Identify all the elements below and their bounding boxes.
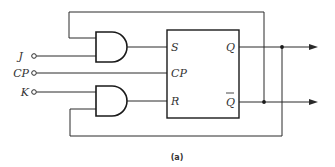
pin-label-qbar: Q xyxy=(226,96,235,109)
jk-flip-flop-diagram: J CP K S CP R Q Q (a) xyxy=(0,0,335,167)
junction-dot-qbar xyxy=(262,100,266,104)
junction-dot-q xyxy=(280,45,284,49)
arrow-q-icon xyxy=(309,44,318,50)
and-gate-bottom xyxy=(96,86,127,116)
label-cp: CP xyxy=(13,67,29,80)
pin-label-s: S xyxy=(171,41,179,54)
label-j: J xyxy=(17,50,24,63)
pin-label-cp: CP xyxy=(171,67,187,80)
label-k: K xyxy=(20,86,30,99)
pin-label-r: R xyxy=(170,95,179,108)
arrow-qbar-icon xyxy=(309,99,318,105)
input-terminal-j xyxy=(32,54,37,59)
input-terminal-cp xyxy=(32,71,37,76)
figure-caption: (a) xyxy=(171,153,184,162)
pin-label-q: Q xyxy=(226,41,235,54)
and-gate-top xyxy=(96,32,127,62)
input-terminal-k xyxy=(32,90,37,95)
